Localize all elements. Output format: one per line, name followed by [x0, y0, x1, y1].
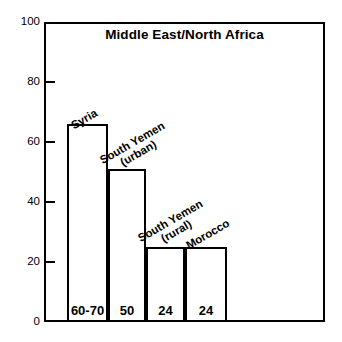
bar-value-syria: 60-70 [69, 304, 106, 317]
bar-value-south-yemen-urban: 50 [110, 304, 144, 317]
y-tick-label-20: 20 [6, 256, 40, 268]
y-axis-labels: 100 80 60 40 20 0 [0, 0, 40, 342]
bar-value-south-yemen-rural: 24 [148, 304, 183, 317]
chart-container: Middle East/North Africa 100 80 60 40 20… [0, 0, 342, 342]
bars-layer: 60-70 50 24 24 Syria South Yemen (urban)… [44, 22, 325, 322]
bar-south-yemen-rural[interactable]: 24 [146, 247, 185, 322]
bar-south-yemen-urban[interactable]: 50 [108, 169, 146, 322]
bar-morocco[interactable]: 24 [185, 247, 227, 322]
y-tick-label-0: 0 [6, 316, 40, 328]
y-tick-label-60: 60 [6, 136, 40, 148]
y-tick-label-40: 40 [6, 196, 40, 208]
y-tick-label-80: 80 [6, 76, 40, 88]
y-tick-label-100: 100 [6, 16, 40, 28]
bar-value-morocco: 24 [187, 304, 225, 317]
